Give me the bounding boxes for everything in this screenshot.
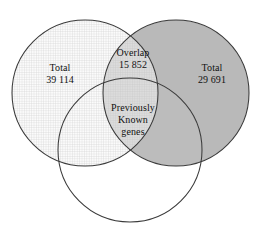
triple-intersection-label-line1: Previously: [98, 102, 168, 114]
right-set-label: Total 29 691: [176, 62, 248, 86]
overlap-label: Overlap 15 852: [102, 47, 164, 71]
right-set-label-title: Total: [176, 62, 248, 74]
left-set-label-value: 39 114: [24, 74, 96, 86]
triple-intersection-label-line2: Known: [98, 114, 168, 126]
overlap-label-title: Overlap: [102, 47, 164, 59]
triple-intersection-label-line3: genes: [98, 126, 168, 138]
left-set-label-title: Total: [24, 62, 96, 74]
overlap-label-value: 15 852: [102, 59, 164, 71]
venn-diagram-figure: Total 39 114 Total 29 691 Overlap 15 852…: [0, 0, 264, 233]
right-set-label-value: 29 691: [176, 74, 248, 86]
triple-intersection-label: Previously Known genes: [98, 102, 168, 137]
left-set-label: Total 39 114: [24, 62, 96, 86]
